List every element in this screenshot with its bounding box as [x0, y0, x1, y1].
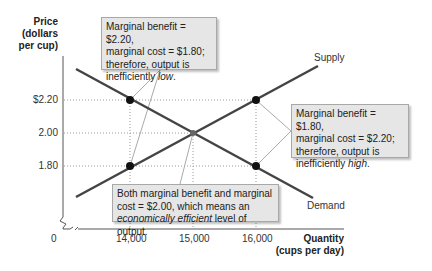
y-tick-2-20: $2.20: [28, 94, 58, 105]
y-title-line: Price: [16, 16, 58, 28]
callout-line: inefficiently high.: [296, 158, 404, 171]
callout-line: therefore, output is: [106, 59, 212, 72]
y-tick-1-80: 1.80: [28, 160, 58, 171]
supply-curve: [76, 66, 318, 197]
equilibrium-point: [190, 130, 196, 136]
callout-line: marginal cost = $2.20;: [296, 133, 404, 146]
callout-text: .: [367, 158, 370, 169]
callout-text: inefficiently: [106, 71, 158, 82]
y-title-line: per cup): [16, 40, 58, 52]
demand-label: Demand: [307, 200, 345, 211]
x-title-line: Quantity: [270, 233, 344, 245]
callout-emphasis: high: [348, 158, 367, 169]
x-axis-break: [70, 227, 78, 230]
x-axis-title: Quantity (cups per day): [270, 233, 344, 257]
callout-line: therefore, output is: [296, 146, 404, 159]
callout-line: economically efficient level of output.: [117, 213, 274, 238]
y-title-line: (dollars: [16, 28, 58, 40]
x-tick-0: 0: [51, 233, 57, 244]
callout-line: Marginal benefit = $2.20,: [106, 21, 212, 46]
callout-line: marginal cost = $1.80;: [106, 46, 212, 59]
callout-inefficiently-low: Marginal benefit = $2.20, marginal cost …: [101, 17, 217, 70]
callout-line: Marginal benefit = $1.80,: [296, 108, 404, 133]
callout-connectors: [130, 70, 291, 184]
y-tick-2-00: 2.00: [28, 127, 58, 138]
callout-inefficiently-high: Marginal benefit = $1.80, marginal cost …: [291, 104, 409, 158]
callout-line: cost = $2.00, which means an: [117, 201, 274, 214]
callout-text: inefficiently: [296, 158, 348, 169]
x-title-line: (cups per day): [270, 245, 344, 257]
supply-label: Supply: [314, 52, 345, 63]
y-axis-break: [60, 217, 66, 229]
callout-text: .: [173, 71, 176, 82]
callout-emphasis: low: [158, 71, 173, 82]
callout-emphasis: economically efficient: [117, 213, 212, 224]
callout-efficient: Both marginal benefit and marginal cost …: [112, 184, 279, 222]
callout-line: Both marginal benefit and marginal: [117, 188, 274, 201]
y-axis-title: Price (dollars per cup): [16, 16, 58, 52]
callout-line: inefficiently low.: [106, 71, 212, 84]
